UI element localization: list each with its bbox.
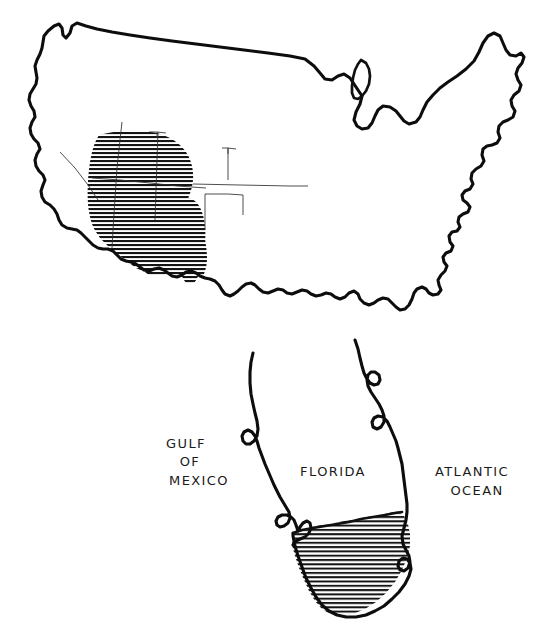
label-florida: FLORIDA xyxy=(300,464,366,479)
label-atlantic-ocean-line1: ATLANTIC xyxy=(435,464,509,479)
label-gulf-of-mexico-line2: OF xyxy=(180,454,201,469)
map-canvas: GULF OF MEXICO FLORIDA ATLANTIC OCEAN xyxy=(0,0,550,630)
label-gulf-of-mexico-line1: GULF xyxy=(166,436,206,451)
map-figure: GULF OF MEXICO FLORIDA ATLANTIC OCEAN xyxy=(0,0,550,630)
figure-background xyxy=(0,0,550,630)
label-gulf-of-mexico-line3: MEXICO xyxy=(169,473,229,488)
label-atlantic-ocean-line2: OCEAN xyxy=(450,483,503,498)
